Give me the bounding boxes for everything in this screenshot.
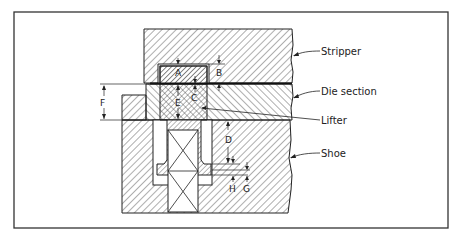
label-die-section-text: Die section	[321, 86, 377, 97]
dimension-label-f: F	[100, 98, 105, 108]
label-shoe-text: Shoe	[321, 148, 346, 159]
label-lifter-text: Lifter	[321, 115, 348, 126]
dimension-label-a: A	[175, 68, 182, 78]
dimension-label-b: B	[216, 68, 222, 78]
label-stripper: Stripper	[293, 46, 362, 57]
dimension-label-h: H	[229, 184, 236, 194]
diagram-canvas: F A B C E D	[0, 0, 460, 243]
label-stripper-text: Stripper	[321, 46, 362, 57]
label-shoe: Shoe	[290, 148, 346, 159]
spring	[168, 130, 198, 212]
dimension-label-e: E	[175, 98, 181, 108]
label-die-section: Die section	[293, 86, 377, 98]
dimension-label-g: G	[243, 184, 250, 194]
dimension-label-c: C	[191, 93, 197, 103]
dimension-label-d: D	[225, 135, 232, 145]
